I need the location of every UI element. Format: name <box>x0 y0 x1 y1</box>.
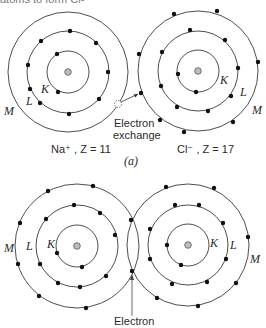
na-ion-label: Na⁺ , Z = 11 <box>51 143 111 156</box>
cl-shell-label-k: K <box>220 73 228 88</box>
electron-exchange-label-line1: Electron <box>114 117 154 129</box>
na-shell-label-m: M <box>4 104 14 119</box>
ionic-bonding-diagram: atoms to form Cl- <box>0 0 266 328</box>
shared-electron-label: Electron <box>114 315 154 327</box>
left-shell-label-k: K <box>47 237 55 252</box>
na-shell-label-l: L <box>26 94 33 109</box>
right-shell-label-l: L <box>230 238 237 253</box>
left-shell-label-m: M <box>4 241 14 256</box>
shared-electron-arrow <box>130 274 134 316</box>
right-shell-label-k: K <box>210 236 218 251</box>
right-shell-label-m: M <box>250 252 260 267</box>
panel-a-label: (a) <box>124 154 138 169</box>
cl-ion-label: Cl⁻ , Z = 17 <box>177 143 234 156</box>
electron-exchange-arrow <box>115 94 139 108</box>
electron-exchange-label-line2: exchange <box>113 129 161 141</box>
na-shell-label-k: K <box>41 82 49 97</box>
cl-shell-label-m: M <box>252 103 262 118</box>
cl-shell-label-l: L <box>240 85 247 100</box>
left-shell-label-l: L <box>26 239 33 254</box>
electron-dots <box>16 9 260 310</box>
